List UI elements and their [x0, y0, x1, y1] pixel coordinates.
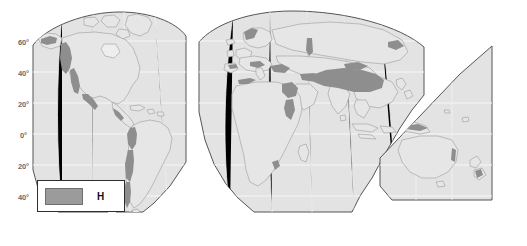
legend-label-h: H: [97, 191, 104, 202]
highland-climate-swatch: [45, 188, 83, 205]
world-map-figure: 60° 40° 20° 0° 20° 40° H: [0, 0, 527, 246]
map-legend: H: [37, 180, 125, 212]
